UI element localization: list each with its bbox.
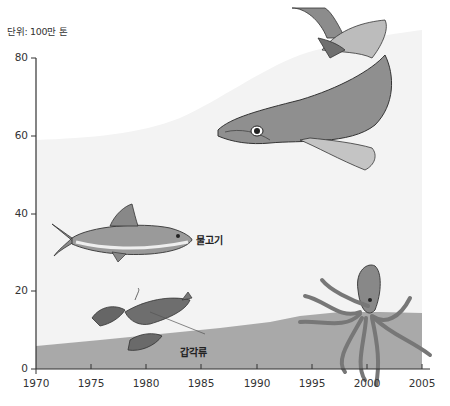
x-tick-1995: 1995: [292, 377, 332, 389]
chart-svg: [0, 0, 450, 406]
y-tick-0: 0: [4, 362, 28, 374]
x-tick-1970: 1970: [16, 377, 56, 389]
x-tick-2000: 2000: [347, 377, 387, 389]
crustacean-series-label: 갑각류: [180, 344, 207, 359]
y-tick-80: 80: [4, 51, 28, 63]
fish-series-label: 물고기: [196, 232, 223, 247]
y-tick-20: 20: [4, 284, 28, 296]
x-tick-1990: 1990: [237, 377, 277, 389]
y-tick-40: 40: [4, 207, 28, 219]
x-tick-2005: 2005: [402, 377, 442, 389]
fisheries-chart: 단위: 100만 톤 0 20 40 60 80 1970 1975 1980 …: [0, 0, 450, 406]
unit-label: 단위: 100만 톤: [7, 24, 67, 38]
x-tick-1985: 1985: [181, 377, 221, 389]
x-tick-1980: 1980: [126, 377, 166, 389]
y-tick-60: 60: [4, 129, 28, 141]
x-tick-1975: 1975: [71, 377, 111, 389]
y-tick-marks: [31, 58, 36, 369]
